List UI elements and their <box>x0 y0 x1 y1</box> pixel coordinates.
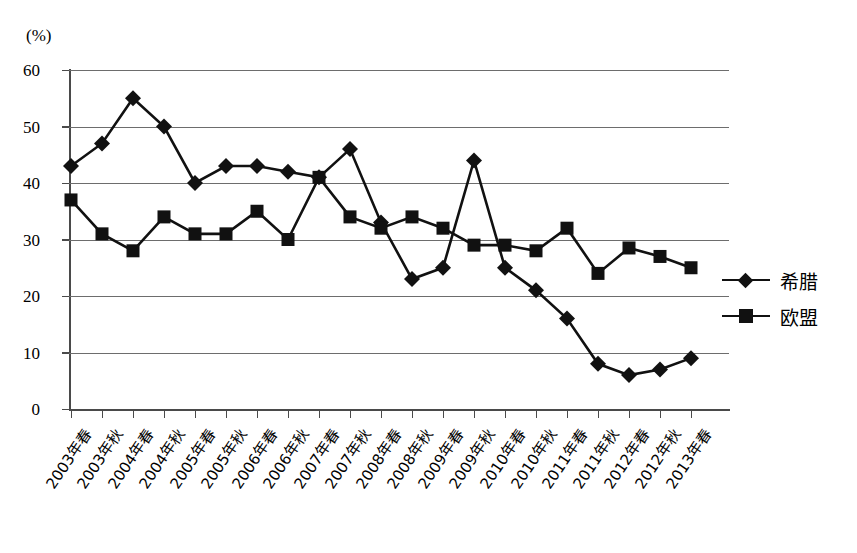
line-chart: (%) 0102030405060 2003年春2003年秋2004年春2004… <box>0 0 857 553</box>
legend-item-greece[interactable]: 希腊 <box>722 262 852 298</box>
data-point <box>375 222 388 235</box>
data-point <box>65 193 78 206</box>
data-point <box>189 227 202 240</box>
y-tick-mark-40 <box>62 183 69 185</box>
data-point <box>220 227 233 240</box>
data-point <box>592 267 605 280</box>
data-point <box>344 210 357 223</box>
data-point <box>96 227 109 240</box>
data-point <box>435 260 451 276</box>
y-tick-mark-60 <box>62 70 69 72</box>
data-point <box>437 222 450 235</box>
data-point <box>621 367 637 383</box>
legend-label: 欧盟 <box>780 303 818 330</box>
data-point <box>158 210 171 223</box>
legend-swatch-square-icon <box>722 306 770 326</box>
data-point <box>282 233 295 246</box>
data-point <box>280 164 296 180</box>
chart-legend: 希腊欧盟 <box>722 262 852 334</box>
data-point <box>652 361 668 377</box>
data-point <box>623 241 636 254</box>
series-eu <box>65 171 698 280</box>
data-point <box>249 158 265 174</box>
data-point <box>530 244 543 257</box>
data-point <box>313 171 326 184</box>
data-point <box>404 271 420 287</box>
series-greece <box>63 90 699 383</box>
data-point <box>590 356 606 372</box>
y-tick-mark-0 <box>62 409 69 411</box>
y-tick-mark-50 <box>62 126 69 128</box>
y-tick-mark-10 <box>62 352 69 354</box>
data-point <box>127 244 140 257</box>
data-point <box>406 210 419 223</box>
y-tick-mark-20 <box>62 296 69 298</box>
y-tick-mark-30 <box>62 239 69 241</box>
data-point <box>466 152 482 168</box>
data-point <box>654 250 667 263</box>
data-point <box>187 175 203 191</box>
legend-item-eu[interactable]: 欧盟 <box>722 298 852 334</box>
legend-label: 希腊 <box>780 267 818 294</box>
data-point <box>683 350 699 366</box>
legend-swatch-diamond-icon <box>722 270 770 290</box>
data-point <box>499 239 512 252</box>
data-point <box>468 239 481 252</box>
data-point <box>561 222 574 235</box>
data-point <box>251 205 264 218</box>
data-point <box>685 261 698 274</box>
data-point <box>218 158 234 174</box>
series-line <box>71 98 691 375</box>
